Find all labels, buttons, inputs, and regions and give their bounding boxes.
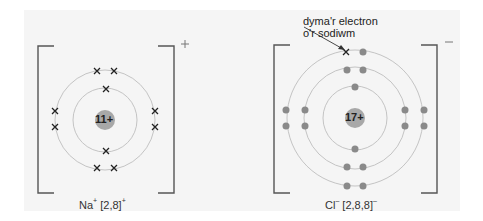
nucleus-label-cl: 17+ (345, 111, 364, 123)
left-bracket-na (38, 46, 54, 193)
chloride-ion-label: Cl– [2,8,8]– (325, 198, 377, 211)
cl-symbol-charge: – (335, 197, 339, 204)
transferred-electron (343, 49, 349, 55)
na-config-charge: + (122, 197, 126, 204)
na-symbol: Na (79, 199, 93, 211)
chloride-ion (274, 27, 453, 193)
sodium-ion (38, 40, 189, 193)
ionic-bonding-diagram (0, 0, 483, 221)
cl-configuration: [2,8,8] (342, 199, 373, 211)
callout-line-1: dyma'r electron (303, 15, 378, 27)
sodium-ion-label: Na+ [2,8]+ (79, 198, 126, 211)
callout-text: dyma'r electron o'r sodiwm (303, 15, 378, 39)
cl-symbol: Cl (325, 199, 335, 211)
positive-charge-sign (181, 40, 189, 48)
left-bracket-cl (274, 45, 290, 193)
nucleus-label-na: 11+ (95, 113, 113, 125)
na-symbol-charge: + (93, 197, 97, 204)
cl-config-charge: – (373, 197, 377, 204)
callout-line-2: o'r sodiwm (303, 27, 378, 39)
na-configuration: [2,8] (100, 199, 121, 211)
right-bracket-na (158, 46, 174, 193)
